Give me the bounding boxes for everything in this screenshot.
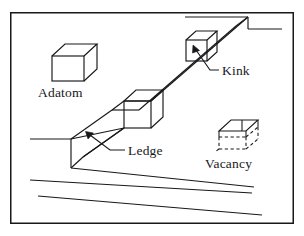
kink-label: Kink bbox=[222, 63, 250, 78]
vacancy-label: Vacancy bbox=[205, 156, 252, 171]
ledge-label: Ledge bbox=[128, 143, 163, 158]
figure-border bbox=[11, 13, 294, 224]
crystal-surface-defects-figure: Kink Ledge Adatom Vacancy bbox=[0, 0, 304, 236]
adatom-label: Adatom bbox=[38, 85, 83, 100]
diagram-canvas: Kink Ledge Adatom Vacancy bbox=[0, 0, 304, 236]
